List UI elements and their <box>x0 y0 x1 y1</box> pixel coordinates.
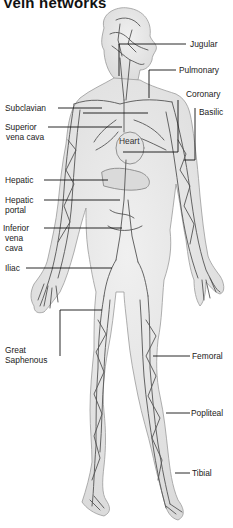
label-popliteal: Popliteal <box>191 408 223 418</box>
label-hepatic-portal-line2: portal <box>5 205 26 215</box>
label-hepatic-portal-line1: Hepatic <box>5 195 33 205</box>
label-inferior-vena-cava-line2: vena <box>5 233 23 243</box>
label-inferior-vena-cava-line1: Inferior <box>3 223 29 233</box>
label-tibial: Tibial <box>192 468 212 478</box>
label-great-saphenous-line2: Saphenous <box>5 355 47 365</box>
label-hepatic: Hepatic <box>5 175 33 185</box>
label-basilic: Basilic <box>199 107 223 117</box>
label-heart: Heart <box>119 136 139 146</box>
label-subclavian: Subclavian <box>5 103 46 113</box>
label-coronary: Coronary <box>186 89 220 99</box>
label-superior-vena-cava-line1: Superior <box>5 122 37 132</box>
label-superior-vena-cava-line2: vena cava <box>6 132 44 142</box>
body-figure <box>0 0 233 528</box>
label-inferior-vena-cava-line3: cava <box>5 243 23 253</box>
label-jugular: Jugular <box>190 39 217 49</box>
label-great-saphenous-line1: Great <box>5 345 26 355</box>
label-femoral: Femoral <box>192 351 223 361</box>
label-iliac: Iliac <box>5 263 20 273</box>
label-pulmonary: Pulmonary <box>179 65 219 75</box>
